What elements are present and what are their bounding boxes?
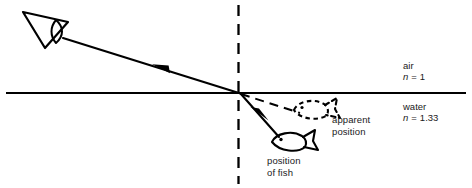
real-fish-icon (272, 130, 318, 151)
water-index-equals: = (411, 112, 417, 123)
water-refractive-index: n=1.33 (403, 112, 438, 123)
position-of-fish-line-2: of fish (267, 167, 301, 179)
air-index-equals: = (411, 71, 417, 82)
water-index-symbol: n (403, 112, 408, 123)
position-of-fish-label: position of fish (267, 155, 301, 179)
position-of-fish-line-1: position (267, 155, 301, 167)
observer-eye-icon (23, 12, 68, 48)
apparent-position-label: apparent position (332, 114, 370, 138)
refraction-diagram: air n=1 water n=1.33 apparent position p… (0, 0, 472, 188)
apparent-position-line-2: position (332, 126, 370, 138)
air-medium-label: air n=1 (403, 60, 425, 82)
refracted-ray-arrowhead (152, 64, 170, 73)
air-index-value: 1 (420, 71, 425, 82)
diagram-canvas (0, 0, 472, 188)
apparent-position-line-1: apparent (332, 114, 370, 126)
air-medium-name: air (403, 60, 425, 71)
water-medium-name: water (403, 101, 438, 112)
air-index-symbol: n (403, 71, 408, 82)
refracted-ray-to-eye (63, 38, 241, 94)
water-index-value: 1.33 (420, 112, 439, 123)
air-refractive-index: n=1 (403, 71, 425, 82)
water-medium-label: water n=1.33 (403, 101, 438, 123)
